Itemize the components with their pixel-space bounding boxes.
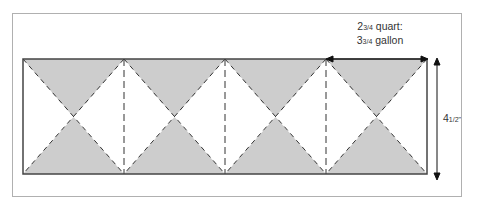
width-label-line1: 23/4 quart:: [336, 20, 424, 34]
width-label: 23/4 quart: 33/4 gallon: [336, 20, 424, 48]
height-label: 41/2": [443, 112, 461, 126]
inch-mark: ": [459, 116, 462, 123]
diagram-canvas: 23/4 quart: 33/4 gallon 41/2": [0, 0, 478, 213]
height-dimension-arrow: [434, 58, 440, 180]
fraction: 3/4: [363, 24, 373, 31]
fraction: 3/4: [363, 38, 373, 45]
fraction: 1/2: [449, 116, 459, 123]
unit-text: gallon: [372, 34, 403, 46]
unit-text: quart:: [373, 20, 403, 32]
width-label-line2: 33/4 gallon: [336, 34, 424, 48]
